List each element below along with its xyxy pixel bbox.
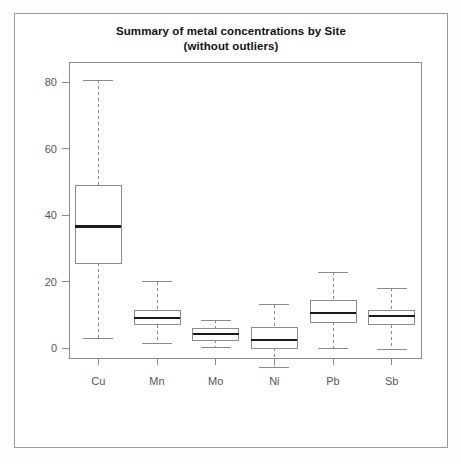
x-axis-category-label: Cu (91, 375, 105, 387)
iqr-rect (75, 185, 121, 263)
iqr-rect (251, 327, 297, 348)
x-axis-category-label: Sb (385, 375, 398, 387)
y-axis-tick-label: 40 (45, 209, 57, 221)
iqr-rect (369, 310, 415, 325)
iqr-rect (310, 300, 356, 322)
boxplot-box-cu (75, 80, 121, 338)
figure-root: Summary of metal concentrations by Site … (0, 0, 461, 463)
boxplot-box-mo (193, 320, 239, 347)
y-axis-tick-label: 0 (51, 342, 57, 354)
boxplot-box-sb (369, 288, 415, 350)
x-axis-category-label: Pb (326, 375, 339, 387)
x-axis-category-label: Mo (208, 375, 223, 387)
y-axis-tick-label: 20 (45, 276, 57, 288)
boxplot-canvas: 020406080CuMnMoNiPbSb (0, 0, 461, 463)
y-axis-tick-label: 80 (45, 76, 57, 88)
y-axis-tick-label: 60 (45, 143, 57, 155)
x-axis-category-label: Mn (149, 375, 164, 387)
boxplot-box-mn (134, 282, 180, 344)
x-axis-category-label: Ni (269, 375, 279, 387)
boxplot-box-pb (310, 272, 356, 348)
